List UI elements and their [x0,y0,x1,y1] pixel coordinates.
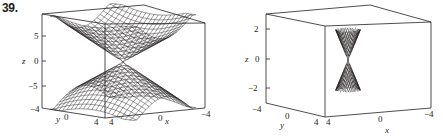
wireframe-mesh [336,28,361,93]
plot-2-canvas: 2 z 0 −2 −4 0 y 4 4 0 x −4 [220,0,443,138]
z-axis-label: z [21,56,26,66]
y-tick-0: 0 [64,112,69,122]
y-tick-4: 4 [94,117,99,127]
x-tick-0: 0 [158,113,163,123]
z-tick-minus2: −2 [248,83,258,93]
x-tick-0: 0 [378,114,383,124]
plot-1-canvas: 5 z 0 −5 −4 y 0 4 4 0 x −4 [0,0,220,138]
x-tick-4: 4 [109,117,114,127]
surface-plot-1: 5 z 0 −5 −4 y 0 4 4 0 x −4 [0,0,220,138]
y-tick-minus4: −4 [252,104,262,114]
z-tick-0: 0 [255,54,260,64]
y-tick-minus4: −4 [30,104,40,114]
y-tick-0: 0 [285,111,290,121]
z-tick-minus5: −5 [28,81,38,91]
x-axis-label: x [384,125,389,135]
wireframe-mesh [50,4,196,121]
x-tick-minus4: −4 [201,109,211,119]
x-tick-minus4: −4 [424,109,434,119]
x-tick-4b: 4 [326,117,331,127]
y-axis-label: y [279,120,284,130]
z-tick-2: 2 [254,24,259,34]
y-axis-label: y [55,114,60,124]
z-axis-label: z [244,54,249,64]
z-tick-5: 5 [34,31,39,41]
x-axis-label: x [164,116,169,126]
x-tick-4: 4 [314,117,319,127]
surface-plot-2: 2 z 0 −2 −4 0 y 4 4 0 x −4 [220,0,443,138]
z-tick-0: 0 [34,56,39,66]
